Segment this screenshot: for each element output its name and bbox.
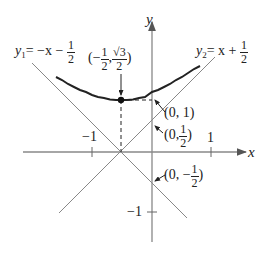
- eq-y2-rhs: = x +: [207, 43, 237, 58]
- eq-y1-frac: 12: [67, 39, 75, 65]
- eq-y1-rhs: = −x −: [26, 43, 64, 58]
- label-min-point: (−12,√32): [88, 46, 131, 72]
- arrow-0-half: [155, 126, 163, 133]
- equation-y1: y1= −x − 12: [15, 39, 75, 65]
- label-point-0-half: (0,12): [164, 123, 192, 149]
- frac-num: 1: [67, 39, 75, 53]
- frac-den: 2: [192, 177, 198, 190]
- frac-den: 2: [180, 137, 186, 150]
- ph-open: (0,: [164, 127, 179, 142]
- eq-y2-frac: 12: [240, 39, 248, 65]
- frac-den: 2: [68, 53, 74, 66]
- frac-num: 1: [179, 123, 187, 137]
- pnh-open: (0, −: [164, 167, 191, 182]
- mp-y-frac: √32: [112, 46, 127, 72]
- mp-open: (−: [88, 50, 101, 65]
- frac-num: 1: [240, 39, 248, 53]
- frac-num: 1: [191, 163, 199, 177]
- y-tick-label-neg1: −1: [127, 205, 142, 219]
- equation-y2: y2= x + 12: [196, 39, 248, 65]
- frac-den: 2: [102, 60, 108, 73]
- label-point-0-neg-half: (0, −12): [164, 163, 203, 189]
- frac-den: 2: [116, 60, 122, 73]
- label-point-0-1: (0, 1): [164, 106, 194, 120]
- x-tick-label-1: 1: [207, 131, 214, 145]
- min-point-dot: [118, 97, 124, 103]
- frac-num: √3: [112, 46, 127, 60]
- frac-den: 2: [241, 53, 247, 66]
- ph-frac: 12: [179, 123, 187, 149]
- frac-num: 1: [101, 46, 109, 60]
- mp-x-frac: 12: [101, 46, 109, 72]
- pnh-frac: 12: [191, 163, 199, 189]
- x-tick-label-neg1: −1: [82, 130, 97, 144]
- y-axis-label: y: [146, 12, 153, 27]
- pnh-close: ): [199, 167, 204, 182]
- x-axis-label: x: [248, 145, 255, 160]
- ph-close: ): [187, 127, 192, 142]
- mp-close: ): [127, 50, 132, 65]
